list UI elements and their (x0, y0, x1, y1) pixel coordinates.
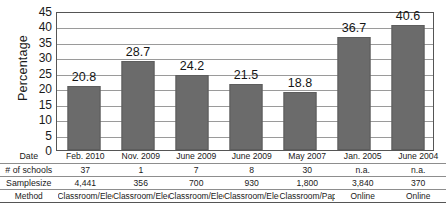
table-row-header: Method (0, 190, 58, 203)
table-cell: June 2009 (224, 150, 279, 163)
bar-column: 20.8 (57, 13, 111, 150)
table-cell: 930 (224, 176, 279, 189)
table-cell: Online (390, 190, 446, 203)
bar (338, 37, 371, 150)
table-cell: Jan. 2005 (335, 150, 390, 163)
bar (122, 61, 155, 150)
bar-value-label: 21.5 (234, 69, 258, 82)
table-cell: Classroom/Elec (224, 190, 279, 203)
table-cell: June 2004 (390, 150, 446, 163)
y-tick-label: 35 (39, 37, 52, 49)
table-cell: Feb. 2010 (58, 150, 113, 163)
table-cell: 3,840 (335, 176, 390, 189)
table-cell: June 2009 (169, 150, 224, 163)
y-tick-label: 10 (39, 114, 52, 126)
table-cell: Nov. 2009 (113, 150, 168, 163)
table-cell: 1 (113, 163, 168, 176)
table-cell: 8 (224, 163, 279, 176)
y-tick-label: 45 (39, 6, 52, 18)
table-cell: 4,441 (58, 176, 113, 189)
bar-column: 28.7 (111, 13, 165, 150)
table-cell: 7 (169, 163, 224, 176)
bar (68, 86, 101, 150)
table-cell: Classroom/Elec (169, 190, 224, 203)
y-axis-tick-labels: 051015202530354045 (22, 4, 52, 146)
bar (392, 25, 425, 150)
table-cell: 37 (58, 163, 113, 176)
y-tick-label: 30 (39, 52, 52, 64)
bar-column: 21.5 (219, 13, 273, 150)
table-row: MethodClassroom/ElecClassroom/ElecClassr… (0, 190, 446, 203)
table-cell: Classroom/Elec (113, 190, 168, 203)
y-tick-label: 25 (39, 68, 52, 80)
bar (230, 84, 263, 150)
y-tick-label: 40 (39, 21, 52, 33)
table-cell: Classroom/Elec (58, 190, 113, 203)
table-cell: 356 (113, 176, 168, 189)
bar (284, 92, 317, 150)
table-row-header: # of schools (0, 163, 58, 176)
y-tick-label: 15 (39, 99, 52, 111)
bar-value-label: 18.8 (288, 77, 312, 90)
table-cell: n.a. (390, 163, 446, 176)
table-row: Samplesize4,4413567009301,8003,840370 (0, 176, 446, 189)
bar-column: 24.2 (165, 13, 219, 150)
bar-value-label: 36.7 (342, 22, 366, 35)
table-row-header: Date (0, 150, 58, 163)
table-cell: Online (335, 190, 390, 203)
table-cell: 370 (390, 176, 446, 189)
bar-value-label: 24.2 (180, 60, 204, 73)
table-row-header: Samplesize (0, 176, 58, 189)
table-cell: n.a. (335, 163, 390, 176)
chart-area: Percentage 051015202530354045 20.828.724… (0, 4, 446, 150)
bar-chart-with-data-table: Percentage 051015202530354045 20.828.724… (0, 0, 446, 207)
bar-value-label: 40.6 (396, 10, 420, 23)
y-tick-label: 5 (45, 130, 52, 142)
bar-column: 18.8 (273, 13, 327, 150)
bar-series: 20.828.724.221.518.836.740.6 (57, 13, 433, 150)
bar-column: 40.6 (381, 13, 435, 150)
plot-frame: 20.828.724.221.518.836.740.6 (56, 12, 434, 151)
bar-value-label: 20.8 (72, 71, 96, 84)
bar-column: 36.7 (327, 13, 381, 150)
table-cell: 30 (279, 163, 334, 176)
table-cell: Classroom/Paper (279, 190, 334, 203)
table-cell: 1,800 (279, 176, 334, 189)
data-table: DateFeb. 2010Nov. 2009June 2009June 2009… (0, 150, 446, 203)
table-cell: 700 (169, 176, 224, 189)
table-row: # of schools3717830n.a.n.a. (0, 163, 446, 176)
data-table-body: DateFeb. 2010Nov. 2009June 2009June 2009… (0, 150, 446, 203)
table-row: DateFeb. 2010Nov. 2009June 2009June 2009… (0, 150, 446, 163)
y-tick-label: 20 (39, 83, 52, 95)
table-cell: May 2007 (279, 150, 334, 163)
data-table-area: DateFeb. 2010Nov. 2009June 2009June 2009… (0, 150, 446, 207)
bar (176, 75, 209, 150)
bar-value-label: 28.7 (126, 46, 150, 59)
